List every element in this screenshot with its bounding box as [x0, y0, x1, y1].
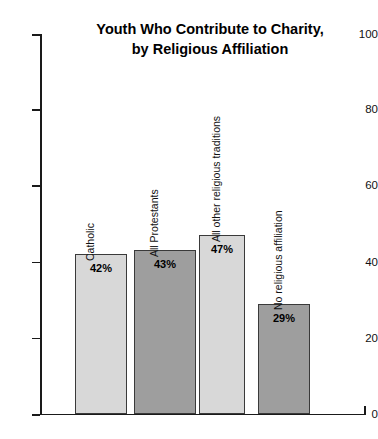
plot-area: 42% Catholic 43% All Protestants 47% All… — [0, 0, 378, 439]
bar-no-religious-affiliation[interactable]: 29% — [258, 304, 310, 415]
bar-value-catholic: 42% — [76, 262, 126, 274]
bar-label-all-protestants: All Protestants — [148, 189, 160, 257]
bar-label-all-other-religious-traditions: All other religious traditions — [210, 116, 222, 242]
bar-value-no-religious-affiliation: 29% — [259, 312, 309, 324]
bar-label-catholic: Catholic — [84, 223, 96, 261]
bar-all-other-religious-traditions[interactable]: 47% — [199, 235, 245, 414]
bar-all-protestants[interactable]: 43% — [134, 250, 196, 414]
bar-value-all-other-religious-traditions: 47% — [200, 243, 244, 255]
bar-catholic[interactable]: 42% — [75, 254, 127, 414]
bar-label-no-religious-affiliation: No religious affiliation — [272, 210, 284, 310]
chart-container: Youth Who Contribute to Charity, by Reli… — [0, 0, 378, 439]
bar-value-all-protestants: 43% — [135, 258, 195, 270]
